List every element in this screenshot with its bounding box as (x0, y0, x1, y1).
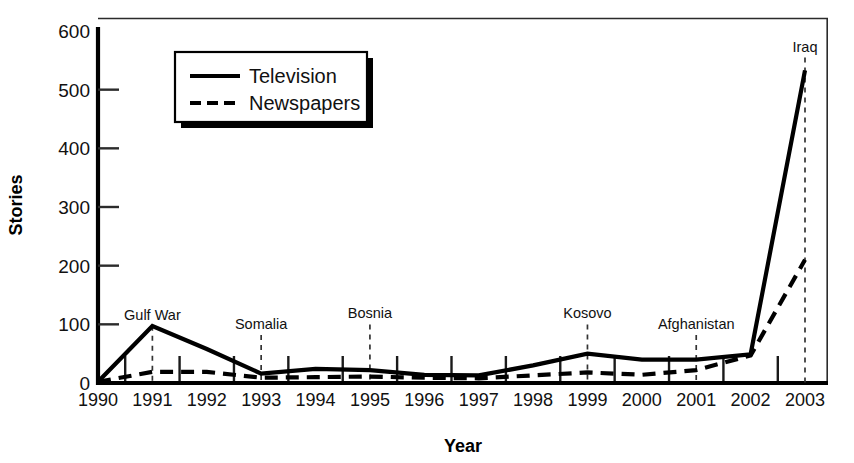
y-tick-label: 200 (58, 256, 90, 277)
y-tick-label: 600 (58, 21, 90, 42)
x-tick-label: 2003 (785, 390, 825, 410)
annotation-label: Gulf War (124, 307, 181, 323)
line-chart-canvas: 0100200300400500600 19901991199219931994… (0, 0, 854, 463)
annotation-label: Afghanistan (658, 316, 735, 332)
x-tick-label: 1999 (567, 390, 607, 410)
annotation-label: Bosnia (348, 305, 393, 321)
chart-legend[interactable]: Television Newspapers (175, 52, 373, 128)
x-tick-label: 1990 (78, 390, 118, 410)
annotation-label: Iraq (793, 39, 818, 55)
x-axis-title: Year (444, 436, 482, 456)
x-tick-label: 1994 (296, 390, 336, 410)
x-tick-label: 1991 (132, 390, 172, 410)
y-tick-label: 100 (58, 314, 90, 335)
y-tick-label: 300 (58, 197, 90, 218)
x-tick-label: 1995 (350, 390, 390, 410)
annotation-label: Somalia (235, 316, 288, 332)
chart-figure: 0100200300400500600 19901991199219931994… (0, 0, 854, 463)
x-tick-label: 2002 (731, 390, 771, 410)
y-tick-label: 400 (58, 138, 90, 159)
x-tick-label: 1992 (187, 390, 227, 410)
legend-label-newspapers: Newspapers (249, 92, 360, 114)
legend-label-television: Television (249, 65, 337, 87)
x-tick-label: 2001 (676, 390, 716, 410)
y-tick-label: 500 (58, 80, 90, 101)
x-tick-label: 1997 (459, 390, 499, 410)
x-tick-label: 1998 (513, 390, 553, 410)
annotation-label: Kosovo (563, 305, 611, 321)
x-tick-label: 1993 (241, 390, 281, 410)
y-axis-title: Stories (6, 174, 26, 235)
x-tick-label: 2000 (622, 390, 662, 410)
x-tick-label: 1996 (404, 390, 444, 410)
